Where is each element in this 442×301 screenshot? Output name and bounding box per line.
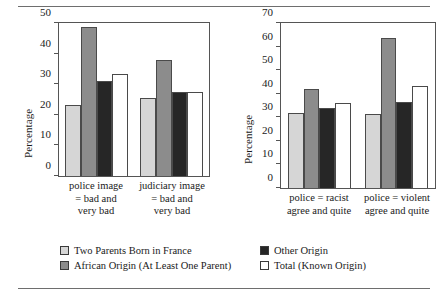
bar bbox=[365, 114, 381, 188]
legend-label: African Origin (At Least One Parent) bbox=[74, 260, 231, 271]
bottom-rule bbox=[18, 288, 430, 289]
y-axis-tick-label: 70 bbox=[262, 7, 273, 18]
y-axis-tick-label: 30 bbox=[40, 68, 51, 79]
y-axis-tick bbox=[54, 22, 59, 23]
legend-label: Total (Known Origin) bbox=[274, 260, 366, 271]
top-rule bbox=[18, 6, 430, 7]
plot-area-right: 010203040506070 bbox=[280, 22, 436, 189]
legend-item: Other Origin bbox=[260, 245, 432, 256]
legend-swatch-icon bbox=[260, 246, 269, 255]
bar-group bbox=[288, 23, 352, 188]
y-axis-tick bbox=[276, 187, 281, 188]
legend-item: Two Parents Born in France bbox=[60, 245, 260, 256]
bar bbox=[156, 60, 172, 176]
bar bbox=[381, 38, 397, 188]
bar bbox=[319, 108, 335, 188]
bar bbox=[112, 74, 128, 176]
y-axis-tick bbox=[276, 46, 281, 47]
y-axis-tick-label: 50 bbox=[262, 54, 273, 65]
y-axis-tick bbox=[54, 175, 59, 176]
y-axis-tick-label: 40 bbox=[40, 37, 51, 48]
legend-swatch-icon bbox=[260, 261, 269, 270]
figure: Percentage 01020304050 police image= bad… bbox=[0, 0, 442, 301]
x-axis-labels-right: police = racistagree and quitepolice = v… bbox=[280, 192, 436, 217]
y-axis-tick bbox=[276, 93, 281, 94]
bar bbox=[304, 89, 320, 188]
legend-label: Two Parents Born in France bbox=[74, 245, 192, 256]
y-axis-tick-label: 10 bbox=[262, 148, 273, 159]
plot-area-left: 01020304050 bbox=[58, 22, 210, 177]
y-axis-tick bbox=[276, 163, 281, 164]
legend: Two Parents Born in FranceOther OriginAf… bbox=[60, 243, 432, 273]
y-axis-title-right: Percentage bbox=[242, 115, 254, 164]
bars-right bbox=[281, 23, 435, 188]
bar-group bbox=[365, 23, 429, 188]
y-axis-tick bbox=[54, 83, 59, 84]
bar bbox=[172, 92, 188, 176]
y-axis-tick-label: 30 bbox=[262, 101, 273, 112]
y-axis-tick-label: 0 bbox=[46, 160, 52, 171]
bars-left bbox=[59, 23, 209, 176]
y-axis-tick bbox=[276, 140, 281, 141]
bar-group bbox=[140, 23, 202, 176]
y-axis-tick-label: 60 bbox=[262, 30, 273, 41]
x-axis-label: police = violentagree and quite bbox=[358, 192, 436, 217]
legend-label: Other Origin bbox=[274, 245, 328, 256]
bar bbox=[97, 81, 113, 176]
y-axis-tick-label: 50 bbox=[40, 7, 51, 18]
bar bbox=[335, 103, 351, 188]
x-axis-label: judiciary image= bad andvery bad bbox=[134, 180, 210, 218]
y-axis-title-left: Percentage bbox=[22, 109, 34, 158]
y-axis-tick bbox=[276, 69, 281, 70]
y-axis-tick-label: 20 bbox=[40, 98, 51, 109]
bar bbox=[65, 105, 81, 176]
y-axis-tick-label: 40 bbox=[262, 77, 273, 88]
bar bbox=[187, 92, 203, 176]
y-axis-tick-label: 0 bbox=[268, 172, 274, 183]
y-axis-tick bbox=[276, 22, 281, 23]
bar bbox=[288, 113, 304, 188]
bar bbox=[81, 27, 97, 176]
bar bbox=[140, 98, 156, 176]
x-axis-label: police = racistagree and quite bbox=[280, 192, 358, 217]
legend-item: African Origin (At Least One Parent) bbox=[60, 260, 260, 271]
y-axis-tick bbox=[276, 116, 281, 117]
y-axis-tick bbox=[54, 144, 59, 145]
bar-group bbox=[65, 23, 127, 176]
bar bbox=[396, 102, 412, 188]
y-axis-tick bbox=[54, 114, 59, 115]
y-axis-tick bbox=[54, 53, 59, 54]
x-axis-label: police image= bad andvery bad bbox=[58, 180, 134, 218]
legend-swatch-icon bbox=[60, 246, 69, 255]
y-axis-tick-label: 10 bbox=[40, 129, 51, 140]
legend-item: Total (Known Origin) bbox=[260, 260, 432, 271]
y-axis-tick-label: 20 bbox=[262, 124, 273, 135]
x-axis-labels-left: police image= bad andvery badjudiciary i… bbox=[58, 180, 210, 218]
bar bbox=[412, 86, 428, 188]
legend-swatch-icon bbox=[60, 261, 69, 270]
